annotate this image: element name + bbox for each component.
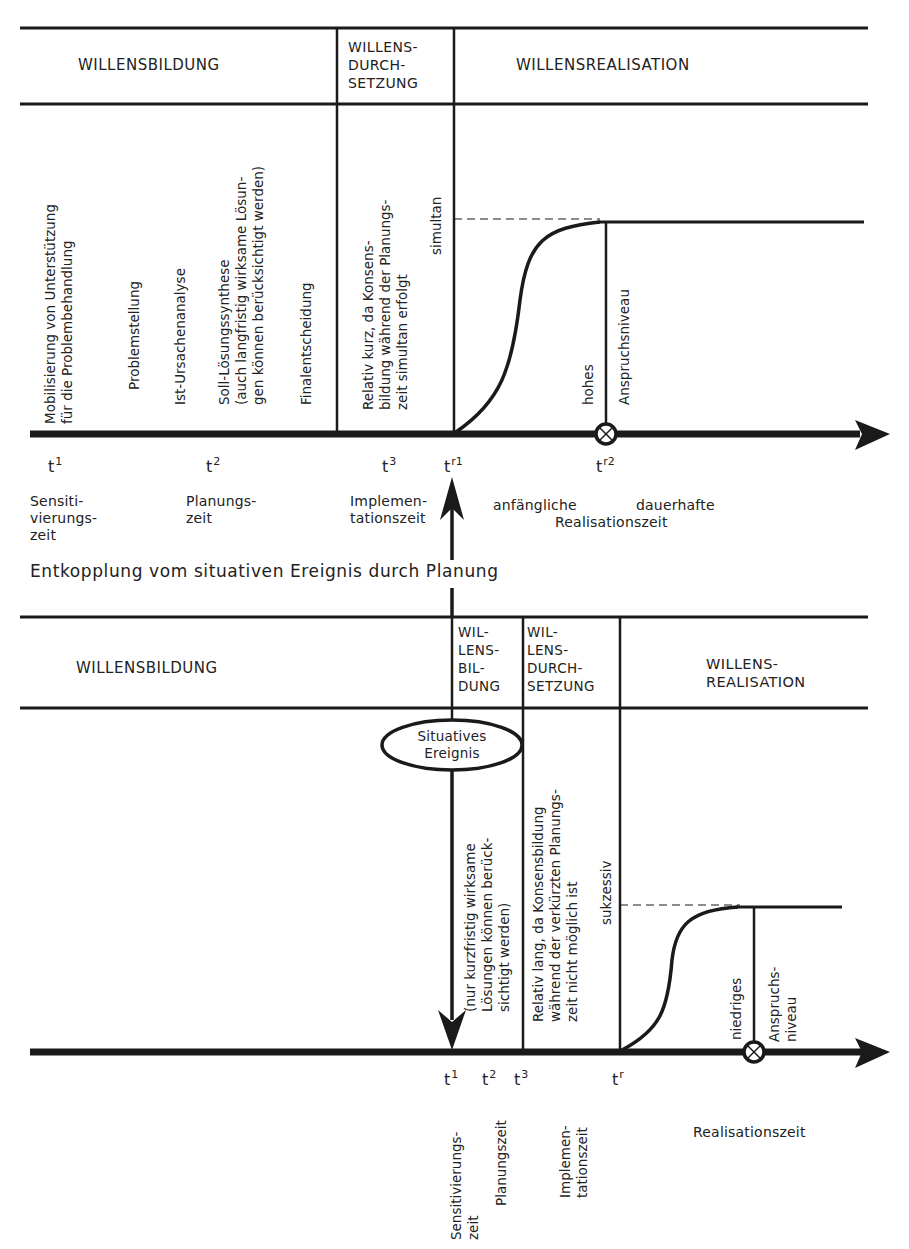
top-period-sensitivierungszeit: Sensiti- vierungs- zeit (30, 493, 97, 544)
top-phase-willensrealisation: WILLENSREALISATION (516, 57, 690, 74)
top-period-implementationszeit: Implemen- tationszeit (350, 493, 427, 527)
bottom-period-realisationszeit: Realisationszeit (693, 1124, 806, 1141)
top-axis-arrowhead (855, 420, 890, 450)
bottom-s-curve (622, 907, 738, 1050)
diagram-lineart (0, 0, 909, 1249)
top-period-anfaengliche: anfängliche (493, 497, 577, 514)
top-anspruchsniveau-label: Anspruchsniveau (616, 289, 633, 405)
bottom-phase-willensbildung-short: WIL- LENS- BIL- DUNG (458, 623, 500, 695)
top-phase-willensbildung: WILLENSBILDUNG (78, 57, 220, 74)
activity-ist-ursachenanalyse: Ist-Ursachenanalyse (172, 268, 189, 405)
top-period-planungszeit: Planungs- zeit (186, 493, 257, 527)
bottom-sukzessiv-label: sukzessiv (598, 860, 615, 925)
top-simultan-label: simultan (428, 197, 445, 255)
top-period-realisationszeit: Realisationszeit (555, 514, 668, 531)
bottom-tick-tr: tr (612, 1068, 624, 1089)
activity-mobilisierung: Mobilisierung von Unterstützung für die … (42, 204, 76, 424)
decoupling-caption: Entkopplung vom situativen Ereignis durc… (30, 563, 499, 580)
top-tick-t2: t2 (206, 455, 220, 476)
bottom-phase-willensdurchsetzung: WIL- LENS- DURCH- SETZUNG (527, 623, 595, 695)
top-hohes-label: hohes (580, 364, 597, 405)
bottom-phase-willensbildung: WILLENSBILDUNG (76, 660, 218, 677)
top-tick-t1: t1 (48, 455, 62, 476)
bottom-tick-t2: t2 (482, 1068, 496, 1089)
top-tick-tr1: tr1 (444, 455, 463, 476)
bottom-phase-willensrealisation: WILLENS- REALISATION (706, 655, 806, 691)
top-phase-willensdurchsetzung: WILLENS- DURCH- SETZUNG (348, 38, 418, 92)
bottom-period-planungszeit: Planungszeit (493, 1120, 510, 1206)
bottom-kurzfristig-note: (nur kurzfristig wirksame Lösungen könne… (462, 838, 513, 1012)
bottom-period-implementationszeit: Implemen- tationszeit (557, 1125, 591, 1198)
top-tick-t3: t3 (382, 455, 396, 476)
top-tick-tr2: tr2 (596, 455, 615, 476)
bottom-tick-t1: t1 (444, 1068, 458, 1089)
situatives-ereignis-label: Situatives Ereignis (412, 728, 492, 762)
bottom-period-sensitivierungszeit: Sensitivierungs- zeit (448, 1132, 482, 1240)
top-period-dauerhafte: dauerhafte (636, 497, 715, 514)
activity-finalentscheidung: Finalentscheidung (298, 282, 315, 405)
top-marker-circle (596, 424, 616, 444)
top-implementation-note: Relativ kurz, da Konsens- bildung währen… (360, 200, 411, 410)
top-s-curve (456, 222, 600, 432)
activity-soll-loesungssynthese: Soll-Lösungssynthese (auch langfristig w… (216, 166, 267, 405)
bottom-tick-t3: t3 (514, 1068, 528, 1089)
bottom-implementation-note: Relativ lang, da Konsensbildung während … (530, 789, 581, 1022)
bottom-marker-circle (744, 1042, 764, 1062)
activity-problemstellung: Problemstellung (126, 281, 143, 390)
bottom-anspruchsniveau-label: Anspruchs- niveau (766, 967, 800, 1042)
bottom-niedriges-label: niedriges (728, 978, 745, 1040)
